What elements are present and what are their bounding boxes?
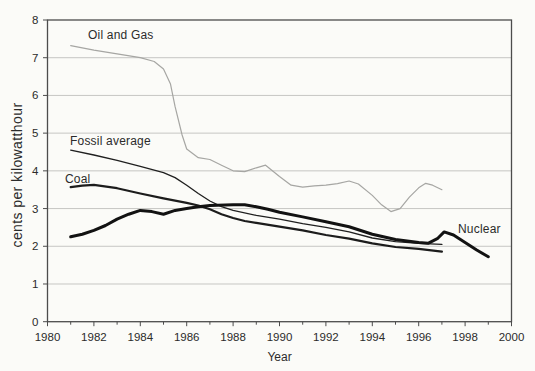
series-line-fossil-average xyxy=(71,150,442,244)
x-tick-label-1980: 1980 xyxy=(35,331,61,343)
series-line-coal xyxy=(71,185,442,252)
y-axis-title: cents per kilowatthour xyxy=(9,65,25,285)
x-tick-label-1988: 1988 xyxy=(220,331,246,343)
x-axis-title: Year xyxy=(249,350,310,364)
x-tick-label-1990: 1990 xyxy=(267,331,293,343)
y-tick-label-6: 6 xyxy=(32,89,38,101)
x-tick-label-1994: 1994 xyxy=(360,331,386,343)
y-tick-label-5: 5 xyxy=(32,127,38,139)
chart-figure: 1980198219841986198819901992199419961998… xyxy=(0,0,535,371)
y-tick-label-8: 8 xyxy=(32,14,38,26)
series-line-oil-and-gas xyxy=(71,46,442,212)
y-tick-label-2: 2 xyxy=(32,240,38,252)
x-tick-label-1984: 1984 xyxy=(128,331,154,343)
series-label-coal: Coal xyxy=(65,172,90,186)
series-label-oil-and-gas: Oil and Gas xyxy=(88,28,154,42)
series-label-nuclear: Nuclear xyxy=(458,222,501,236)
y-tick-label-0: 0 xyxy=(32,316,38,328)
y-tick-label-7: 7 xyxy=(32,52,38,64)
x-tick-label-1996: 1996 xyxy=(406,331,432,343)
x-tick-label-1982: 1982 xyxy=(81,331,107,343)
y-tick-label-1: 1 xyxy=(32,278,38,290)
x-tick-label-1986: 1986 xyxy=(174,331,200,343)
y-tick-label-4: 4 xyxy=(32,165,39,177)
x-tick-label-1992: 1992 xyxy=(313,331,339,343)
y-tick-label-3: 3 xyxy=(32,203,38,215)
x-tick-label-1998: 1998 xyxy=(452,331,478,343)
x-tick-label-2000: 2000 xyxy=(499,331,525,343)
series-label-fossil-average: Fossil average xyxy=(70,134,151,148)
